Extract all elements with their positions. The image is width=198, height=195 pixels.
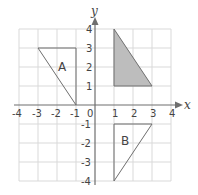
y-tick: -4 [81,176,91,187]
x-tick: 2 [131,108,137,119]
y-tick: 1 [86,81,92,92]
x-tick: 1 [112,108,118,119]
origin-label: 0 [87,108,93,119]
x-tick: -2 [51,108,61,119]
x-tick: -4 [12,108,22,119]
y-tick: -3 [81,157,91,168]
x-axis-label: x [184,98,191,112]
y-tick: 2 [86,62,92,73]
triangle-a-label: A [58,60,67,74]
y-axis-arrow-icon [92,17,99,25]
x-tick: 4 [169,108,175,119]
x-tick: 3 [150,108,156,119]
y-tick: -2 [81,138,91,149]
x-tick: -1 [70,108,80,119]
x-axis-arrow-icon [175,102,183,109]
y-tick: 3 [86,43,92,54]
x-tick-labels: -4 -3 -2 -1 0 1 2 3 4 [12,108,175,119]
coordinate-grid: x y -4 -3 -2 -1 0 1 2 3 4 4 3 2 1 -1 -2 … [0,0,198,195]
axes [14,22,178,185]
y-tick: 4 [86,24,92,35]
y-tick: -1 [81,119,91,130]
y-axis-label: y [90,4,98,18]
triangle-b-label: B [121,134,129,148]
x-tick: -3 [32,108,42,119]
